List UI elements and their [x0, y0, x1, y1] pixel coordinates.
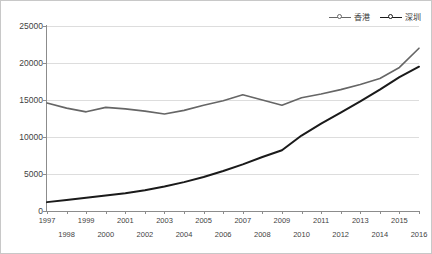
x-axis-tick-label: 1997 [34, 216, 60, 225]
legend-label-hongkong: 香港 [354, 13, 370, 22]
x-axis-tick [86, 211, 87, 214]
legend-entry-shenzhen[interactable]: 深圳 [380, 13, 421, 22]
x-axis-tick-label: 2012 [328, 230, 354, 239]
x-axis-tick [106, 211, 107, 214]
x-axis-tick-label: 2008 [249, 230, 275, 239]
x-axis-tick [67, 211, 68, 214]
x-axis-tick [380, 211, 381, 214]
x-axis-tick-label: 1999 [73, 216, 99, 225]
x-axis-tick [164, 211, 165, 214]
x-axis-tick-label: 2002 [132, 230, 158, 239]
x-axis-tick [341, 211, 342, 214]
x-axis-tick-label: 2007 [230, 216, 256, 225]
legend-marker-filled-circle-icon [380, 13, 402, 22]
chart-legend: 香港 深圳 [329, 10, 421, 24]
x-axis-tick [184, 211, 185, 214]
x-axis-tick [282, 211, 283, 214]
legend-entry-hongkong[interactable]: 香港 [329, 13, 370, 22]
x-axis-tick [302, 211, 303, 214]
x-axis-tick-label: 2014 [367, 230, 393, 239]
x-axis-tick-label: 2000 [93, 230, 119, 239]
x-axis-tick-label: 2009 [269, 216, 295, 225]
x-axis-tick-label: 2003 [151, 216, 177, 225]
x-axis-tick [204, 211, 205, 214]
series-line-hongkong [47, 48, 419, 114]
x-axis-tick [321, 211, 322, 214]
x-axis-tick [243, 211, 244, 214]
x-axis-tick [47, 211, 48, 214]
line-chart: 香港 深圳 0500010000150002000025000 19971998… [0, 0, 432, 254]
series-line-shenzhen [47, 67, 419, 202]
y-axis-tick-label: 15000 [3, 96, 43, 105]
x-axis-tick-label: 2016 [406, 230, 432, 239]
x-axis-tick [360, 211, 361, 214]
x-axis-tick-label: 2013 [347, 216, 373, 225]
x-axis-line [46, 211, 420, 212]
y-axis-tick-label: 25000 [3, 22, 43, 31]
x-axis-tick [223, 211, 224, 214]
y-axis-tick-label: 0 [3, 207, 43, 216]
legend-marker-hollow-circle-icon [329, 13, 351, 22]
x-axis-tick-label: 2001 [112, 216, 138, 225]
x-axis-tick [399, 211, 400, 214]
x-axis-tick-label: 2015 [386, 216, 412, 225]
x-axis-tick [262, 211, 263, 214]
legend-label-shenzhen: 深圳 [405, 13, 421, 22]
x-axis-tick-label: 1998 [54, 230, 80, 239]
x-axis-tick-label: 2011 [308, 216, 334, 225]
y-axis-tick-label: 5000 [3, 170, 43, 179]
x-axis-tick-label: 2010 [289, 230, 315, 239]
x-axis-tick-label: 2006 [210, 230, 236, 239]
x-axis-tick-label: 2005 [191, 216, 217, 225]
y-axis-tick-label: 20000 [3, 59, 43, 68]
x-axis-tick-label: 2004 [171, 230, 197, 239]
series-lines [47, 26, 419, 211]
x-axis-tick [145, 211, 146, 214]
x-axis-tick [125, 211, 126, 214]
plot-area [47, 26, 419, 211]
y-axis-tick-label: 10000 [3, 133, 43, 142]
x-axis-tick [419, 211, 420, 214]
